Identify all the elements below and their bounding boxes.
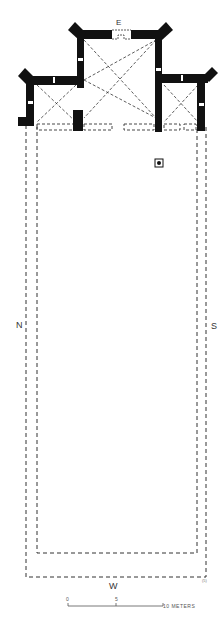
nave-outer-outline [26, 125, 206, 577]
west-label: W [109, 582, 118, 591]
scale-bar [68, 603, 163, 606]
east-label: E [116, 19, 121, 27]
north-label: N [16, 321, 23, 330]
scale-tick-10-meters: 10 METERS [163, 604, 195, 609]
altar-marker-icon [155, 159, 163, 167]
scale-tick-0: 0 [66, 597, 69, 602]
foundation-dashed-footings [37, 124, 196, 130]
south-label: S [211, 322, 217, 331]
scale-tick-5: 5 [115, 597, 118, 602]
figure-mark: (5) [202, 579, 207, 583]
floor-plan [0, 0, 223, 623]
east-doorway [112, 30, 131, 39]
nave-inner-outline [37, 125, 197, 553]
